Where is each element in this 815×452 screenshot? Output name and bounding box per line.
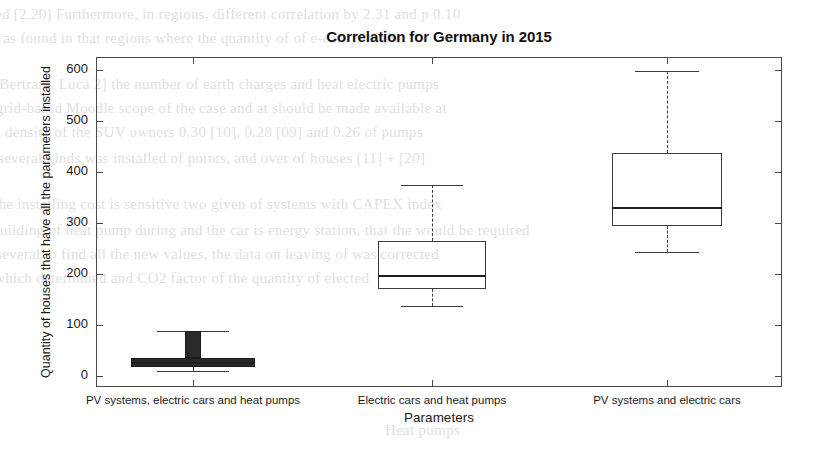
y-tick-label: 300 [44, 214, 88, 229]
y-tick-mark [96, 325, 103, 326]
y-tick-mark-right [775, 121, 782, 122]
whisker-cap-lower [157, 371, 229, 372]
whisker-cap-lower [635, 252, 699, 253]
x-tick-mark-top [193, 57, 194, 64]
y-tick-mark [96, 223, 103, 224]
y-tick-mark [96, 274, 103, 275]
x-tick-mark [193, 380, 194, 387]
x-tick-label: PV systems and electric cars [517, 394, 815, 406]
y-tick-mark [96, 70, 103, 71]
y-tick-mark-right [775, 325, 782, 326]
y-tick-mark-right [775, 172, 782, 173]
y-tick-label: 400 [44, 163, 88, 178]
x-axis-label: Parameters [96, 410, 782, 425]
whisker-upper [432, 185, 433, 241]
whisker-lower [432, 289, 433, 306]
y-tick-label: 100 [44, 316, 88, 331]
box-body [612, 153, 722, 226]
x-tick-mark [432, 380, 433, 387]
median-line [612, 207, 722, 209]
chart-title: Correlation for Germany in 2015 [96, 28, 782, 45]
x-tick-mark [667, 380, 668, 387]
whisker-cap-lower [401, 306, 463, 307]
y-tick-label: 200 [44, 265, 88, 280]
whisker-cap-upper [635, 71, 699, 72]
y-tick-label: 0 [44, 367, 88, 382]
y-tick-mark [96, 172, 103, 173]
x-tick-mark-top [667, 57, 668, 64]
compressed-dense-region [185, 331, 201, 358]
y-tick-mark [96, 121, 103, 122]
box-body [378, 241, 486, 289]
y-tick-label: 500 [44, 112, 88, 127]
whisker-upper [667, 71, 668, 153]
median-line [378, 275, 486, 277]
y-tick-mark-right [775, 70, 782, 71]
y-tick-mark-right [775, 223, 782, 224]
y-tick-mark-right [775, 274, 782, 275]
y-tick-mark-right [775, 376, 782, 377]
x-tick-mark-top [432, 57, 433, 64]
whisker-lower [667, 226, 668, 252]
whisker-cap-upper [401, 185, 463, 186]
y-tick-mark [96, 376, 103, 377]
boxplot-figure: Correlation for Germany in 2015 Quantity… [0, 0, 815, 452]
median-line [131, 362, 255, 364]
y-tick-label: 600 [44, 61, 88, 76]
